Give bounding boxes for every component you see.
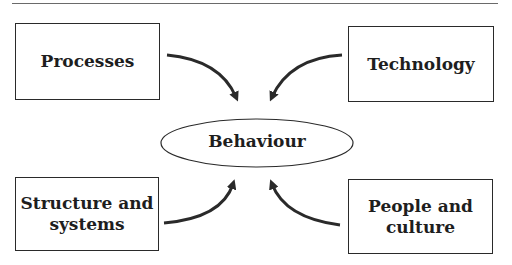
node-processes: Processes xyxy=(15,23,160,100)
node-structure-label-line2: systems xyxy=(21,214,154,235)
node-people-label-line1: People and xyxy=(368,196,473,217)
node-processes-label: Processes xyxy=(41,51,135,72)
node-structure-and-systems: Structure and systems xyxy=(15,177,159,251)
arrow-structure-to-behaviour xyxy=(164,184,233,223)
arrow-processes-to-behaviour xyxy=(167,55,236,97)
arrow-technology-to-behaviour xyxy=(272,55,342,97)
node-structure-label-line1: Structure and xyxy=(21,193,154,214)
arrow-people-to-behaviour xyxy=(272,184,340,225)
node-people-label-line2: culture xyxy=(368,217,473,238)
node-technology: Technology xyxy=(348,26,494,102)
node-people-and-culture: People and culture xyxy=(348,179,493,254)
behaviour-label: Behaviour xyxy=(161,131,353,151)
node-technology-label: Technology xyxy=(367,54,475,75)
